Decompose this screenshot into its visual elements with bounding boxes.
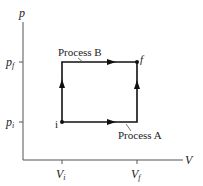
- y-tick-label-pf: pf: [5, 55, 16, 70]
- point-final: [135, 60, 139, 64]
- process-a-label: Process A: [118, 129, 162, 141]
- y-axis-label: p: [18, 6, 25, 20]
- x-axis-label: V: [185, 153, 194, 167]
- arrow-up-icon: [134, 80, 140, 89]
- x-tick-label-vf: Vf: [131, 167, 142, 182]
- arrow-right-icon: [107, 59, 116, 65]
- arrow-right-icon: [107, 119, 116, 125]
- process-b-path: [59, 59, 137, 122]
- point-initial-label: i: [55, 118, 58, 130]
- arrow-up-icon: [59, 79, 65, 88]
- axes: [19, 22, 183, 164]
- x-tick-label-vi: Vi: [56, 167, 66, 182]
- point-initial: [60, 120, 64, 124]
- y-tick-label-pi: pi: [5, 115, 14, 130]
- process-b-label: Process B: [58, 46, 102, 58]
- point-final-label: f: [140, 53, 145, 65]
- pv-diagram: p V pf pi Vi Vf i f Process B Process A: [0, 0, 203, 186]
- process-a-path: [62, 62, 140, 125]
